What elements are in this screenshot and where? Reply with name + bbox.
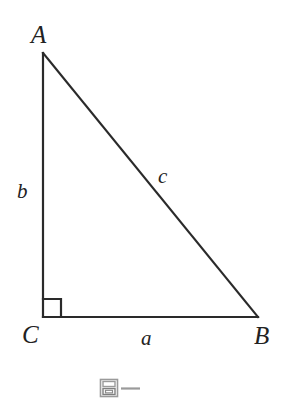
side-label-a: a <box>141 328 152 349</box>
vertex-label-b: B <box>254 323 269 348</box>
scan-artifact-icon <box>99 378 141 398</box>
side-label-c: c <box>158 166 167 187</box>
side-c-line <box>43 53 258 317</box>
side-label-b: b <box>17 181 28 202</box>
figure-canvas: A B C a b c <box>0 0 287 417</box>
vertex-label-a: A <box>31 22 46 47</box>
right-angle-marker <box>43 299 61 317</box>
triangle-diagram-svg <box>0 0 287 417</box>
vertex-label-c: C <box>22 322 39 347</box>
triangle-outline <box>43 53 258 317</box>
